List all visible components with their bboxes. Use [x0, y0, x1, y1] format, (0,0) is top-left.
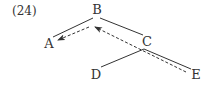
tree-diagram: (24) B A C D E	[0, 0, 209, 87]
node-e: E	[191, 68, 201, 81]
node-c: C	[142, 35, 152, 48]
node-b: B	[92, 3, 102, 16]
node-d: D	[91, 68, 101, 81]
tree-edges	[0, 0, 209, 87]
edge-c-d	[101, 49, 144, 67]
edge-c-e	[144, 49, 191, 69]
edge-b-c	[100, 18, 143, 35]
node-a: A	[44, 37, 53, 50]
movement-arrow-b-to-a	[58, 27, 89, 40]
